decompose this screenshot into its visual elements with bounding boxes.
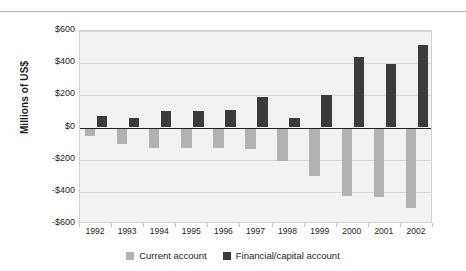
bar-current-account xyxy=(245,128,256,150)
legend-swatch-icon-financial-capital-account xyxy=(223,252,231,260)
bar-current-account xyxy=(181,128,192,148)
gridline xyxy=(80,31,431,32)
bar-financial-capital-account xyxy=(129,118,140,128)
x-axis-tickmark xyxy=(432,223,433,227)
y-axis-tick-label: $400 xyxy=(31,57,75,66)
x-axis-tick-label: 1994 xyxy=(143,227,175,236)
x-axis-tick-label: 1999 xyxy=(304,227,336,236)
legend-swatch-icon-current-account xyxy=(126,252,134,260)
y-axis-tick-labels: $600$400$200$0-$200-$400-$600 xyxy=(30,30,75,223)
top-divider-rule xyxy=(0,11,466,12)
x-axis-tick-label: 1995 xyxy=(175,227,207,236)
bar-financial-capital-account xyxy=(161,111,172,128)
x-axis-tick-label: 1998 xyxy=(272,227,304,236)
legend-item-current-account: Current account xyxy=(126,250,207,261)
bar-current-account xyxy=(149,128,160,149)
legend-label-current-account: Current account xyxy=(139,250,207,261)
chart-legend: Current account Financial/capital accoun… xyxy=(0,250,466,261)
x-axis-tick-labels: 1992199319941995199619971998199920002001… xyxy=(79,227,432,243)
gridline xyxy=(80,95,431,96)
bar-current-account xyxy=(374,128,385,197)
x-axis-tick-label: 1993 xyxy=(111,227,143,236)
x-axis-tick-label: 2002 xyxy=(400,227,432,236)
plot-area xyxy=(79,30,432,223)
bar-current-account xyxy=(342,128,353,196)
gridline xyxy=(80,63,431,64)
y-axis-title: Millions of US$ xyxy=(19,28,30,168)
bar-current-account xyxy=(309,128,320,176)
bar-financial-capital-account xyxy=(354,57,365,128)
bar-current-account xyxy=(85,128,96,136)
bar-financial-capital-account xyxy=(418,45,429,127)
y-axis-tick-label: $600 xyxy=(31,25,75,34)
bar-financial-capital-account xyxy=(386,64,397,128)
bar-financial-capital-account xyxy=(193,111,204,127)
chart-figure: Millions of US$ $600$400$200$0-$200-$400… xyxy=(0,0,466,271)
bar-financial-capital-account xyxy=(257,97,268,128)
y-axis-tick-label: -$200 xyxy=(31,154,75,163)
bar-financial-capital-account xyxy=(225,110,236,128)
bar-financial-capital-account xyxy=(97,116,108,127)
x-axis-tick-label: 2000 xyxy=(336,227,368,236)
legend-label-financial-capital-account: Financial/capital account xyxy=(236,250,340,261)
bar-financial-capital-account xyxy=(289,118,300,128)
y-axis-tick-label: -$600 xyxy=(31,218,75,227)
y-axis-tick-label: $0 xyxy=(31,122,75,131)
x-axis-tick-label: 1996 xyxy=(207,227,239,236)
x-axis-tick-label: 2001 xyxy=(368,227,400,236)
legend-item-financial-capital-account: Financial/capital account xyxy=(223,250,340,261)
bar-current-account xyxy=(277,128,288,162)
zero-axis-line xyxy=(80,128,431,129)
bar-current-account xyxy=(406,128,417,208)
bar-current-account xyxy=(117,128,128,145)
x-axis-tick-label: 1997 xyxy=(240,227,272,236)
y-axis-tick-label: -$400 xyxy=(31,186,75,195)
bar-current-account xyxy=(213,128,224,148)
y-axis-tick-label: $200 xyxy=(31,89,75,98)
x-axis-tick-label: 1992 xyxy=(79,227,111,236)
bar-financial-capital-account xyxy=(321,95,332,128)
